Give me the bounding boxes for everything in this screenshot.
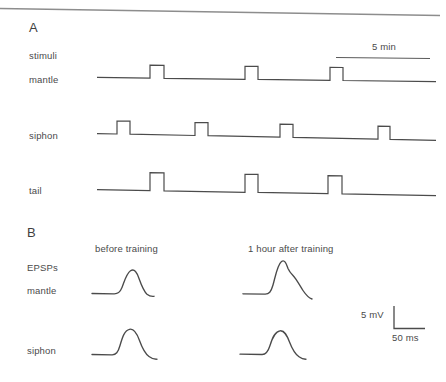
calibration-scale-bar: [394, 306, 425, 329]
trace-label-siphon: siphon: [29, 130, 58, 141]
trace-stimuli-siphon: [97, 121, 436, 140]
panel-a-letter: A: [29, 20, 38, 35]
top-divider-rule: [0, 9, 440, 16]
column-header-before-training: before training: [95, 243, 158, 254]
epsp-mantle-after-training: [243, 261, 312, 299]
trace-label-tail: tail: [29, 185, 42, 196]
panel-a-group-label: stimuli: [29, 50, 57, 61]
panel-b-letter: B: [27, 225, 36, 240]
epsp-siphon-after-training: [240, 331, 306, 359]
trace-stimuli-tail: [97, 173, 436, 196]
figure-canvas: A stimuli mantle siphon tail 5 min B bef…: [0, 0, 446, 382]
voltage-scale-label-5mv: 5 mV: [361, 309, 384, 320]
epsp-label-mantle: mantle: [27, 285, 56, 296]
epsp-siphon-before-training: [92, 329, 157, 359]
figure-traces: [0, 0, 446, 382]
time-scale-bar-5min: [336, 58, 430, 59]
epsp-mantle-before-training: [92, 270, 154, 296]
time-scale-label-5min: 5 min: [372, 41, 396, 52]
time-scale-label-50ms: 50 ms: [392, 332, 419, 343]
trace-stimuli-mantle: [97, 65, 436, 82]
column-header-after-training: 1 hour after training: [248, 243, 334, 254]
epsp-label-siphon: siphon: [27, 345, 56, 356]
trace-label-mantle: mantle: [29, 74, 58, 85]
panel-b-group-label: EPSPs: [27, 262, 58, 273]
